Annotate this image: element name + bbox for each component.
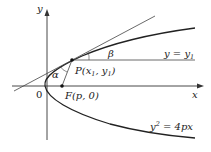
alpha-label: α <box>52 69 59 80</box>
beta-label: β <box>107 48 114 59</box>
point-p-label: P(x1, y1) <box>74 65 116 78</box>
parabola-equation-label: y2 = 4px <box>149 120 193 132</box>
point-p-dot <box>70 58 74 62</box>
point-f-dot <box>60 84 64 88</box>
parabola-reflection-diagram: y x 0 β α P(x1, y1) F(p, 0) y = y1 y2 = … <box>0 0 211 152</box>
x-axis-label: x <box>192 89 198 100</box>
y-axis-arrow-icon <box>45 9 50 16</box>
horizontal-line-label: y = y1 <box>163 48 194 61</box>
x-axis-arrow-icon <box>197 84 204 89</box>
origin-label: 0 <box>36 89 42 100</box>
point-f-label: F(p, 0) <box>64 90 99 101</box>
y-axis-label: y <box>36 3 43 14</box>
tangent-line <box>14 16 155 91</box>
